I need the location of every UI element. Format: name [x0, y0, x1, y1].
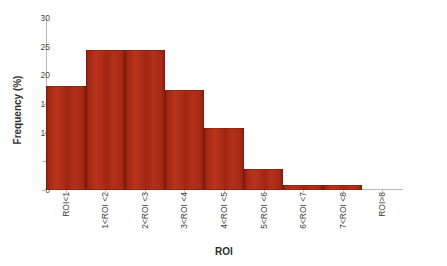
x-axis-tick: 3<ROI <4 [165, 190, 205, 242]
x-axis-tick: ROI>8 [362, 190, 402, 242]
x-axis-tick: 5<ROI <6 [244, 190, 284, 242]
bar [244, 169, 284, 190]
bar-cell [165, 18, 205, 190]
y-axis-title-label: Frequency (%) [12, 76, 23, 145]
x-axis-tick: 4<ROI <5 [204, 190, 244, 242]
x-axis-tick-labels: ROI<11<ROI <22<ROI <33<ROI <44<ROI <55<R… [46, 190, 402, 242]
x-axis-title: ROI [46, 246, 402, 257]
x-axis-tick-label: 6<ROI <7 [298, 192, 308, 229]
x-axis-tick-label: 2<ROI <3 [140, 192, 150, 229]
x-axis-tick-label: 7<ROI <8 [338, 192, 348, 229]
bar [86, 50, 126, 190]
bar [204, 128, 244, 190]
x-axis-tick: 7<ROI <8 [323, 190, 363, 242]
bar [165, 90, 205, 190]
bar-cell [323, 18, 363, 190]
bar-cell [204, 18, 244, 190]
bar-cell [86, 18, 126, 190]
bar-cell [244, 18, 284, 190]
plot-area [46, 18, 402, 190]
x-axis-tick-label: 4<ROI <5 [219, 192, 229, 229]
x-axis-tick-label: 1<ROI <2 [100, 192, 110, 229]
x-axis-tick: 2<ROI <3 [125, 190, 165, 242]
x-axis-tick-label: 3<ROI <4 [179, 192, 189, 229]
bar-cell [46, 18, 86, 190]
bar-series [46, 18, 402, 190]
x-axis-tick-label: ROI>8 [377, 192, 387, 217]
bar [46, 86, 86, 190]
x-axis-tick-label: ROI<1 [61, 192, 71, 217]
x-axis-tick: ROI<1 [46, 190, 86, 242]
x-axis-tick-label: 5<ROI <6 [259, 192, 269, 229]
bar [125, 50, 165, 190]
bar-cell [362, 18, 402, 190]
x-axis-tick: 6<ROI <7 [283, 190, 323, 242]
bar-cell [125, 18, 165, 190]
bar-cell [283, 18, 323, 190]
histogram-chart: Frequency (%) 051015202530 ROI<11<ROI <2… [0, 0, 447, 266]
x-axis-tick: 1<ROI <2 [86, 190, 126, 242]
y-axis-title: Frequency (%) [10, 50, 24, 170]
